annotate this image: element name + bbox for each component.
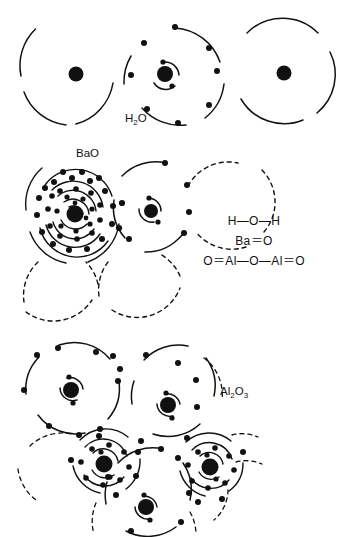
oxygen-center-nucleus (157, 66, 173, 82)
electron-dot (231, 467, 237, 473)
electron-dot (146, 195, 151, 200)
electron-dot (193, 377, 199, 383)
electron-dot (99, 236, 105, 242)
electron-dot (55, 345, 61, 351)
electron-dot (98, 449, 103, 454)
figure-canvas: H2O (0, 0, 347, 537)
electron-dot (96, 175, 102, 181)
electron-dot (106, 442, 112, 448)
electron-dot (74, 236, 80, 242)
electron-dot (113, 492, 119, 498)
electron-dot (186, 490, 192, 496)
electron-dot (155, 219, 160, 224)
electron-dot (206, 45, 212, 51)
electron-dot (42, 185, 48, 191)
electron-dot (34, 212, 40, 218)
aluminium-left-nucleus (96, 456, 113, 473)
electron-dot (181, 230, 187, 236)
electron-dot (84, 216, 89, 221)
electron-dot (206, 102, 212, 108)
electron-dot (50, 241, 56, 247)
electron-dot (194, 404, 200, 410)
electron-dot (128, 72, 134, 78)
electron-dot (49, 193, 55, 199)
electron-dot (80, 196, 85, 201)
electron-dot (89, 230, 95, 236)
electron-dot (47, 223, 53, 229)
electron-dot (83, 475, 89, 481)
electron-dot (162, 160, 168, 166)
electron-dot (87, 221, 92, 226)
electron-dot (96, 433, 102, 439)
electron-dot (214, 68, 220, 74)
o-ur-nucleus (160, 397, 176, 413)
electron-dot (186, 209, 192, 215)
aluminium-right-nucleus (202, 459, 219, 476)
electron-dot (212, 445, 218, 451)
electron-dot (105, 474, 111, 480)
electron-dot (88, 190, 94, 196)
hydrogen-right-nucleus (277, 66, 292, 81)
electron-dot (175, 120, 181, 126)
electron-dot (240, 449, 246, 455)
electron-dot (128, 528, 134, 534)
electron-dot (70, 400, 75, 405)
electron-dot (133, 473, 139, 479)
electron-dot (66, 374, 71, 379)
o-low-nucleus (138, 499, 154, 515)
figure-background (0, 0, 347, 537)
electron-dot (57, 188, 63, 194)
electron-dot (64, 194, 69, 199)
electron-dot (204, 452, 209, 457)
electron-dot (34, 352, 40, 358)
electron-dot (109, 221, 115, 227)
electron-dot (66, 247, 72, 253)
electron-dot (73, 228, 78, 233)
electron-dot (117, 477, 123, 483)
electron-dot (97, 202, 103, 208)
electron-dot (222, 480, 228, 486)
electron-dot (184, 435, 190, 441)
electron-dot (169, 83, 174, 88)
bao-label: BaO (76, 147, 99, 159)
electron-dot (102, 188, 108, 194)
electron-dot (178, 519, 184, 525)
electron-dot (117, 366, 123, 372)
electron-dot (158, 446, 164, 452)
electron-dot (213, 476, 218, 481)
electron-dot (141, 492, 146, 497)
electron-dot (172, 24, 178, 30)
electron-dot (121, 449, 127, 455)
electron-dot (79, 169, 85, 175)
electron-dot (97, 217, 103, 223)
electron-dot (73, 186, 79, 192)
electron-dot (58, 223, 63, 228)
electron-dot (39, 229, 45, 235)
electron-dot (219, 496, 225, 502)
bao-oxygen-nucleus (144, 204, 158, 218)
electron-dot (126, 236, 132, 242)
electron-dot (73, 201, 78, 206)
electron-dot (160, 59, 165, 64)
electron-dot (119, 200, 125, 206)
electron-dot (175, 455, 181, 461)
electron-dot (45, 206, 51, 212)
electron-dot (205, 485, 211, 491)
electron-dot (76, 432, 82, 438)
electron-dot (138, 438, 144, 444)
electron-dot (21, 387, 27, 393)
electron-dot (126, 464, 132, 470)
electron-dot (84, 246, 90, 252)
water-formula: H—O—H (228, 214, 281, 228)
electron-dot (54, 208, 59, 213)
electron-dot (89, 206, 94, 211)
electron-dot (147, 517, 152, 522)
electron-dot (69, 175, 75, 181)
electron-dot (60, 169, 66, 175)
electron-dot (36, 195, 42, 201)
electron-dot (100, 482, 106, 488)
electron-dot (78, 459, 84, 465)
electron-dot (46, 423, 52, 429)
electron-dot (141, 40, 147, 46)
electron-dot (115, 378, 121, 384)
